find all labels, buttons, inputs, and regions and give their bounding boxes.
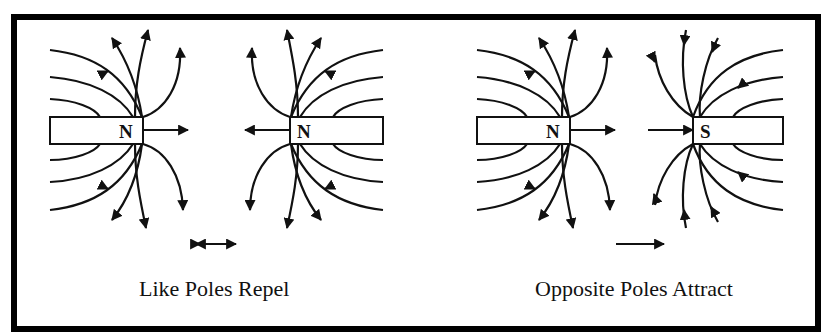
- caption-opposite-poles-attract: Opposite Poles Attract: [535, 276, 733, 302]
- pole-label-n: N: [546, 121, 560, 142]
- pole-label-n: N: [297, 121, 311, 142]
- pole-label-s: S: [700, 121, 711, 142]
- pole-label-n: N: [119, 121, 133, 142]
- caption-like-poles-repel: Like Poles Repel: [139, 276, 289, 302]
